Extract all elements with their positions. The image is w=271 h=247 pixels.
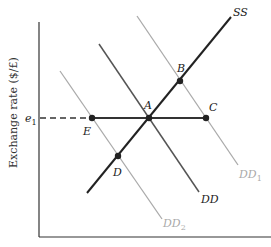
dd1-curve: [137, 16, 238, 165]
point-e: [89, 115, 95, 121]
point-e-label: E: [82, 125, 91, 138]
y-axis-label: Exchange rate ($/£): [7, 57, 20, 168]
point-d-label: D: [112, 166, 122, 179]
e1-label: e1: [25, 112, 37, 127]
point-c-label: C: [209, 101, 218, 114]
dd-label: DD: [200, 193, 219, 206]
dd1-label: DD1: [238, 168, 262, 183]
point-a-label: A: [143, 99, 152, 112]
ss-label: SS: [233, 6, 248, 19]
point-b-label: B: [176, 62, 185, 75]
point-c: [203, 115, 209, 121]
point-a: [146, 115, 152, 121]
exchange-rate-diagram: Exchange rate ($/£) e1 A B C D E SS DD D…: [0, 0, 271, 247]
point-d: [115, 153, 121, 159]
point-b: [177, 78, 183, 84]
dd2-curve: [60, 71, 162, 219]
dd2-label: DD2: [162, 217, 186, 232]
